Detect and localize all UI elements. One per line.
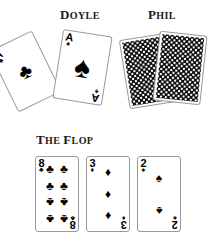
doyle-hand: A ♣ ♣ A ♠ ♠ A ♠	[0, 0, 120, 120]
clubs-icon: ♣	[60, 196, 68, 208]
flop-heading-flop-initial: F	[63, 132, 71, 147]
spade-icon: ♠	[173, 214, 177, 221]
clubs-icon: ♣	[46, 163, 54, 175]
diamond-icon: ♦	[105, 188, 111, 200]
card-three-of-diamonds[interactable]: 3 ♦ ♦ ♦ ♦ 3 ♦	[86, 156, 130, 232]
clubs-icon: ♣	[60, 213, 68, 225]
card-back-pattern	[156, 34, 204, 102]
flop-cards-row: 8 ♣ ♣ ♣ ♣ ♣ ♣ ♣ ♣ ♣ 8 ♣ 3 ♦ ♦ ♦ ♦ 3	[35, 156, 181, 232]
diamond-icon: ♦	[105, 166, 111, 178]
face-down-card-right[interactable]	[152, 31, 207, 106]
card-ace-of-clubs[interactable]: A ♣ ♣	[0, 30, 62, 112]
card-index-bottom-right: 2 ♠	[172, 214, 178, 229]
clubs-icon: ♣	[46, 196, 54, 208]
flop-heading: THE FLOP	[36, 131, 93, 147]
phil-hand	[118, 0, 222, 120]
flop-heading-the-initial: T	[36, 132, 45, 147]
diamond-icon: ♦	[122, 214, 126, 221]
card-index-bottom-right: 8 ♣	[70, 214, 76, 229]
spade-icon: ♠	[72, 51, 92, 83]
card-center-pip: ♠	[53, 30, 111, 105]
flop-heading-flop-rest: LOP	[72, 135, 94, 146]
clubs-icon: ♣	[60, 163, 68, 175]
card-eight-of-clubs[interactable]: 8 ♣ ♣ ♣ ♣ ♣ ♣ ♣ ♣ ♣ 8 ♣	[35, 156, 79, 232]
clubs-icon: ♣	[15, 60, 36, 84]
clubs-icon: ♣	[46, 213, 54, 225]
clubs-icon: ♣	[46, 180, 54, 192]
spade-icon: ♠	[156, 172, 162, 184]
clubs-icon: ♣	[70, 214, 75, 221]
spade-icon: ♠	[156, 205, 162, 217]
flop-heading-the-rest: HE	[45, 135, 60, 146]
card-ace-of-spades[interactable]: A ♠ ♠ A ♠	[52, 29, 112, 106]
card-index-bottom-right: 3 ♦	[121, 214, 127, 229]
card-center-pip: ♣	[0, 32, 60, 111]
diamond-icon: ♦	[105, 210, 111, 222]
clubs-icon: ♣	[60, 180, 68, 192]
card-two-of-spades[interactable]: 2 ♠ ♠ ♠ 2 ♠	[137, 156, 181, 232]
